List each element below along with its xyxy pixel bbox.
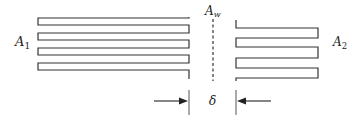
label-a1: A1: [14, 34, 30, 51]
left-fin-array: [38, 17, 189, 79]
arrow-left-icon: [237, 98, 271, 105]
label-a2: A2: [332, 35, 347, 51]
fin-diagram: A1 Aw A2 δ: [0, 0, 360, 122]
label-aw: Aw: [204, 4, 221, 19]
right-fin-array: [236, 20, 318, 81]
label-gap-delta: δ: [209, 94, 216, 108]
arrow-right-icon: [154, 98, 188, 105]
